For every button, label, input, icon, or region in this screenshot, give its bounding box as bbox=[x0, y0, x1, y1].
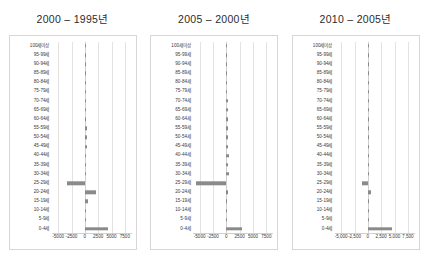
bar bbox=[368, 200, 369, 203]
y-axis-label: 20-24세 bbox=[14, 188, 50, 196]
y-axis-label: 30-34세 bbox=[14, 170, 50, 178]
chart-panel-1: 2005 – 2000년 100세이상95-99세90-94세85-89세80-… bbox=[144, 4, 285, 250]
bar-row bbox=[193, 51, 273, 59]
y-axis-label: 5-9세 bbox=[297, 216, 333, 224]
chart-title-0: 2000 – 1995년 bbox=[37, 11, 109, 26]
y-axis-label: 35-39세 bbox=[155, 161, 191, 169]
y-axis-label: 40-44세 bbox=[297, 152, 333, 160]
x-axis-tick-label: 2500 bbox=[235, 235, 245, 240]
y-axis-label: 45-49세 bbox=[297, 143, 333, 151]
x-axis-tick-label: 2500 bbox=[93, 235, 103, 240]
bar bbox=[368, 191, 371, 194]
y-axis-label: 60-64세 bbox=[297, 115, 333, 123]
bar-row bbox=[52, 106, 132, 114]
y-axis-label: 80-84세 bbox=[155, 79, 191, 87]
x-axis-tick-label: -2500 bbox=[207, 235, 219, 240]
bar-row bbox=[52, 152, 132, 160]
bar bbox=[85, 218, 86, 221]
bar-row bbox=[193, 207, 273, 215]
bar-row bbox=[335, 207, 415, 215]
bar-row bbox=[52, 225, 132, 233]
y-axis-labels-1: 100세이상95-99세90-94세85-89세80-84세75-79세70-7… bbox=[155, 42, 193, 233]
bar bbox=[368, 127, 369, 130]
y-axis-label: 80-84세 bbox=[14, 79, 50, 87]
bar bbox=[368, 227, 393, 230]
y-axis-label: 45-49세 bbox=[14, 143, 50, 151]
bar-row bbox=[52, 97, 132, 105]
bar-row bbox=[193, 225, 273, 233]
y-axis-label: 70-74세 bbox=[297, 97, 333, 105]
x-axis-tick-label: 5000 bbox=[248, 235, 258, 240]
bar bbox=[226, 227, 241, 230]
bar-row bbox=[193, 143, 273, 151]
bar-row bbox=[335, 179, 415, 187]
x-axis-tick-label: 7500 bbox=[261, 235, 271, 240]
bar bbox=[368, 218, 369, 221]
bar-row bbox=[52, 69, 132, 77]
bar-row bbox=[52, 188, 132, 196]
bar bbox=[226, 127, 228, 130]
figure-root: 2000 – 1995년 100세이상95-99세90-94세85-89세80-… bbox=[0, 0, 428, 264]
y-axis-label: 55-59세 bbox=[14, 124, 50, 132]
bar bbox=[85, 136, 87, 139]
bar-row bbox=[193, 197, 273, 205]
y-axis-label: 55-59세 bbox=[155, 124, 191, 132]
bar bbox=[85, 72, 86, 75]
bar bbox=[85, 117, 86, 120]
bar bbox=[85, 209, 86, 212]
y-axis-label: 30-34세 bbox=[155, 170, 191, 178]
bar bbox=[226, 99, 227, 102]
bar-row bbox=[193, 188, 273, 196]
x-axis-tick-label: -2,500 bbox=[348, 235, 361, 240]
chart-title-2: 2010 – 2005년 bbox=[320, 11, 392, 26]
bar-row bbox=[335, 124, 415, 132]
bar-row bbox=[335, 197, 415, 205]
bar-row bbox=[193, 69, 273, 77]
y-axis-label: 95-99세 bbox=[297, 51, 333, 59]
chart-frame-1: 100세이상95-99세90-94세85-89세80-84세75-79세70-7… bbox=[150, 35, 278, 250]
bar-row bbox=[335, 188, 415, 196]
bar bbox=[85, 191, 96, 194]
y-axis-label: 65-69세 bbox=[14, 106, 50, 114]
bar-row bbox=[335, 152, 415, 160]
bar-row bbox=[193, 42, 273, 50]
bar bbox=[226, 108, 227, 111]
bar bbox=[226, 81, 227, 84]
bar-row bbox=[193, 106, 273, 114]
bar-row bbox=[52, 124, 132, 132]
bar-row bbox=[193, 79, 273, 87]
y-axis-label: 70-74세 bbox=[155, 97, 191, 105]
y-axis-label: 60-64세 bbox=[14, 115, 50, 123]
y-axis-label: 90-94세 bbox=[14, 60, 50, 68]
bar-row bbox=[335, 115, 415, 123]
bar-row bbox=[193, 133, 273, 141]
bar-row bbox=[193, 60, 273, 68]
bar-row bbox=[193, 88, 273, 96]
y-axis-label: 40-44세 bbox=[14, 152, 50, 160]
bar-row bbox=[52, 133, 132, 141]
x-axis-tick-label: 0 bbox=[84, 235, 87, 240]
y-axis-label: 65-69세 bbox=[155, 106, 191, 114]
bar bbox=[226, 136, 228, 139]
y-axis-label: 15-19세 bbox=[14, 197, 50, 205]
y-axis-label: 50-54세 bbox=[155, 133, 191, 141]
y-axis-label: 90-94세 bbox=[155, 60, 191, 68]
y-axis-label: 95-99세 bbox=[14, 51, 50, 59]
y-axis-label: 25-29세 bbox=[297, 179, 333, 187]
bar bbox=[196, 181, 226, 184]
y-axis-labels-0: 100세이상95-99세90-94세85-89세80-84세75-79세70-7… bbox=[14, 42, 52, 233]
x-axis-tick-label: 5,000 bbox=[389, 235, 401, 240]
y-axis-label: 90-94세 bbox=[297, 60, 333, 68]
bar bbox=[85, 163, 87, 166]
y-axis-label: 10-14세 bbox=[14, 207, 50, 215]
bar bbox=[85, 90, 86, 93]
bar bbox=[85, 127, 87, 130]
bar bbox=[368, 99, 369, 102]
bar-rows bbox=[193, 42, 273, 233]
bar-row bbox=[335, 88, 415, 96]
bar bbox=[85, 200, 88, 203]
y-axis-label: 0-4세 bbox=[155, 225, 191, 233]
bar bbox=[368, 90, 369, 93]
y-axis-label: 5-9세 bbox=[14, 216, 50, 224]
bar bbox=[368, 63, 369, 66]
